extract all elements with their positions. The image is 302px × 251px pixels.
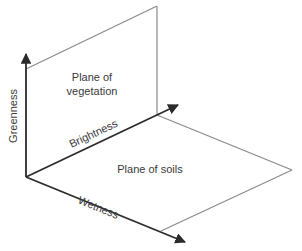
wetness-label: Wetness	[77, 194, 121, 221]
tasseled-cap-diagram: Greenness Brightness Wetness Plane of ve…	[0, 0, 302, 251]
soils-plane-label: Plane of soils	[117, 163, 183, 175]
vegetation-plane-label-line2: vegetation	[67, 85, 118, 97]
vegetation-plane-label-line1: Plane of	[72, 71, 113, 83]
vegetation-plane	[26, 6, 157, 115]
greenness-label: Greenness	[7, 89, 19, 143]
